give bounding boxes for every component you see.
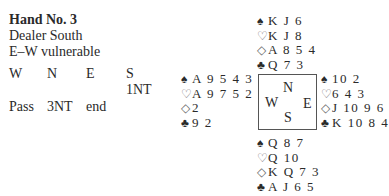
east-spades: 10 2 bbox=[332, 71, 361, 86]
east-clubs: K 10 8 4 bbox=[332, 115, 389, 130]
south-clubs: A J 6 5 bbox=[268, 179, 315, 194]
west-hearts: A 9 7 5 2 bbox=[192, 86, 253, 101]
club-icon: ♣ bbox=[321, 116, 332, 131]
diamond-icon: ◇ bbox=[181, 101, 192, 116]
compass-east: E bbox=[303, 96, 312, 112]
compass-box: N W E S bbox=[258, 74, 317, 130]
diamond-icon: ◇ bbox=[257, 165, 268, 180]
auction-bid: Pass bbox=[9, 99, 34, 115]
north-spades: K J 6 bbox=[268, 13, 303, 28]
north-hearts: K J 8 bbox=[268, 28, 303, 43]
club-icon: ♣ bbox=[257, 180, 268, 195]
compass-west: W bbox=[265, 95, 278, 111]
spade-icon: ♠ bbox=[257, 136, 268, 151]
west-spades: A 9 5 4 3 bbox=[192, 71, 253, 86]
compass-north: N bbox=[283, 80, 293, 96]
compass-south: S bbox=[284, 110, 292, 126]
auction-header-s: S bbox=[126, 66, 134, 82]
north-hand: ♠K J 6 ♡K J 8 ◇A 8 5 4 ♣Q 7 3 bbox=[257, 14, 316, 72]
east-hand: ♠10 2 ♡6 4 3 ◇J 10 9 6 ♣K 10 8 4 bbox=[321, 72, 389, 130]
auction-bid: 3NT bbox=[47, 99, 73, 115]
club-icon: ♣ bbox=[181, 116, 192, 131]
east-diamonds: J 10 9 6 bbox=[332, 100, 385, 115]
dealer-label: Dealer South bbox=[9, 28, 100, 44]
auction-header-w: W bbox=[9, 66, 22, 82]
spade-icon: ♠ bbox=[321, 72, 332, 87]
vulnerability-label: E–W vulnerable bbox=[9, 44, 100, 60]
west-diamonds: 2 bbox=[192, 100, 200, 115]
south-spades: Q 8 7 bbox=[268, 135, 304, 150]
hand-title: Hand No. 3 bbox=[9, 12, 100, 28]
diamond-icon: ◇ bbox=[321, 101, 332, 116]
auction-header-n: N bbox=[47, 66, 57, 82]
spade-icon: ♠ bbox=[257, 14, 268, 29]
spade-icon: ♠ bbox=[181, 72, 192, 87]
south-hand: ♠Q 8 7 ♡Q 10 ◇K Q 7 3 ♣A J 6 5 bbox=[257, 136, 320, 194]
diamond-icon: ◇ bbox=[257, 43, 268, 58]
south-diamonds: K Q 7 3 bbox=[268, 164, 320, 179]
north-clubs: Q 7 3 bbox=[268, 57, 304, 72]
auction-bid: 1NT bbox=[126, 82, 152, 98]
east-hearts: 6 4 3 bbox=[332, 86, 366, 101]
heart-icon: ♡ bbox=[257, 151, 268, 166]
west-hand: ♠A 9 5 4 3 ♡A 9 7 5 2 ◇2 ♣9 2 bbox=[181, 72, 253, 130]
west-clubs: 9 2 bbox=[192, 115, 213, 130]
club-icon: ♣ bbox=[257, 58, 268, 73]
heart-icon: ♡ bbox=[321, 87, 332, 102]
north-diamonds: A 8 5 4 bbox=[268, 42, 316, 57]
heart-icon: ♡ bbox=[257, 29, 268, 44]
heart-icon: ♡ bbox=[181, 87, 192, 102]
auction-bid: end bbox=[86, 99, 106, 115]
deal-header: Hand No. 3 Dealer South E–W vulnerable bbox=[9, 12, 100, 60]
south-hearts: Q 10 bbox=[268, 150, 300, 165]
auction-header-e: E bbox=[86, 66, 95, 82]
